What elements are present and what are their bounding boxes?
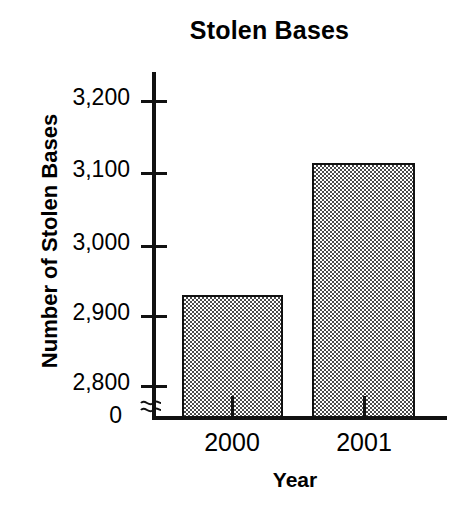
y-tick-label: 3,200 bbox=[38, 84, 130, 111]
y-tick-mark bbox=[141, 172, 167, 175]
x-axis-label: Year bbox=[150, 468, 440, 492]
bar-2001[interactable] bbox=[312, 163, 415, 418]
y-tick-label-zero: 0 bbox=[30, 402, 122, 429]
y-tick-label: 3,100 bbox=[38, 156, 130, 183]
y-tick-label: 3,000 bbox=[38, 229, 130, 256]
y-tick-label: 2,800 bbox=[38, 369, 130, 396]
x-tick-mark bbox=[363, 396, 366, 418]
stolen-bases-bar-chart: Stolen Bases Number of Stolen Bases 3,20… bbox=[0, 0, 455, 515]
y-tick-mark bbox=[141, 385, 167, 388]
axis-break-icon bbox=[138, 396, 164, 416]
x-tick-label: 2001 bbox=[304, 428, 424, 457]
plot-area: 3,2003,1003,0002,9002,8000 20002001 bbox=[0, 0, 455, 515]
y-tick-label: 2,900 bbox=[38, 299, 130, 326]
x-tick-label: 2000 bbox=[172, 428, 292, 457]
y-tick-mark bbox=[141, 245, 167, 248]
x-tick-mark bbox=[231, 396, 234, 418]
x-axis-line bbox=[152, 416, 447, 420]
y-tick-mark bbox=[141, 100, 167, 103]
y-tick-mark bbox=[141, 315, 167, 318]
